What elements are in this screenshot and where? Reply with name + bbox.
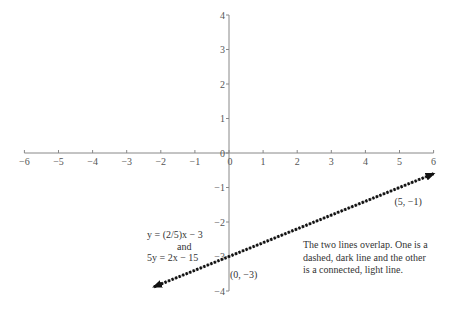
coordinate-plane-chart: −6−5−4−3−2−1012345643210−1−2−3−4 (0, −3)…: [0, 0, 450, 309]
y-tick-label: 0: [220, 148, 225, 159]
equation-label-line: 5y = 2x − 15: [147, 252, 198, 263]
y-tick-label: −4: [214, 286, 225, 297]
y-tick-label: 2: [220, 79, 225, 90]
x-tick-label: 6: [431, 156, 436, 167]
overlap-note-line: dashed, dark line and the other: [303, 252, 426, 263]
x-tick-label: −4: [87, 156, 98, 167]
equation-label-line: and: [177, 241, 191, 252]
overlap-note-line: The two lines overlap. One is a: [303, 239, 428, 250]
x-tick-label: −3: [121, 156, 132, 167]
x-tick-label: 5: [397, 156, 402, 167]
overlap-note-line: is a connected, light line.: [303, 264, 403, 275]
equation-label-line: y = (2/5)x − 3: [147, 229, 203, 241]
x-tick-label: −5: [53, 156, 64, 167]
x-tick-label: 0: [228, 156, 233, 167]
x-tick-label: 1: [261, 156, 266, 167]
x-tick-label: −6: [19, 156, 30, 167]
x-tick-label: 4: [363, 156, 368, 167]
y-tick-label: −1: [214, 182, 225, 193]
x-tick-label: 2: [295, 156, 300, 167]
x-tick-label: −1: [190, 156, 201, 167]
annotations: (0, −3)(5, −1)y = (2/5)x − 3and5y = 2x −…: [147, 196, 428, 281]
y-tick-label: −2: [214, 217, 225, 228]
y-tick-label: 1: [220, 113, 225, 124]
y-tick-label: 3: [220, 44, 225, 55]
y-tick-label: 4: [220, 10, 225, 21]
x-tick-label: 3: [329, 156, 334, 167]
point-label-y-intercept: (0, −3): [230, 269, 257, 281]
point-label-5-neg1: (5, −1): [395, 196, 422, 208]
x-tick-label: −2: [155, 156, 166, 167]
